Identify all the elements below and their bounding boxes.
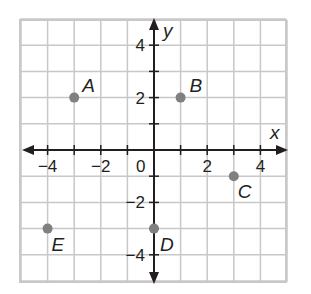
point-marker — [43, 224, 53, 234]
y-axis-label: y — [161, 20, 174, 41]
point-a: A — [69, 75, 95, 103]
point-marker — [69, 93, 79, 103]
point-label: B — [190, 75, 203, 96]
y-tick-label: −2 — [126, 193, 145, 212]
x-axis-arrow-left-icon — [22, 145, 34, 155]
y-tick-label: 4 — [136, 36, 145, 55]
coordinate-plane: −4−22442−2−4 x y 0 ABCDE — [0, 0, 311, 294]
point-b: B — [176, 75, 203, 103]
point-marker — [149, 224, 159, 234]
x-tick-label: −4 — [38, 157, 57, 176]
point-marker — [176, 93, 186, 103]
point-label: C — [238, 181, 252, 202]
origin-label: 0 — [136, 157, 145, 176]
x-axis-label: x — [269, 122, 281, 143]
y-tick-label: −4 — [126, 246, 145, 265]
point-label: D — [160, 234, 174, 255]
x-tick-label: 4 — [256, 157, 265, 176]
point-label: A — [81, 75, 95, 96]
y-tick-label: 2 — [136, 89, 145, 108]
x-tick-label: −2 — [91, 157, 110, 176]
point-marker — [229, 171, 239, 181]
x-tick-label: 2 — [202, 157, 211, 176]
point-label: E — [52, 234, 65, 255]
